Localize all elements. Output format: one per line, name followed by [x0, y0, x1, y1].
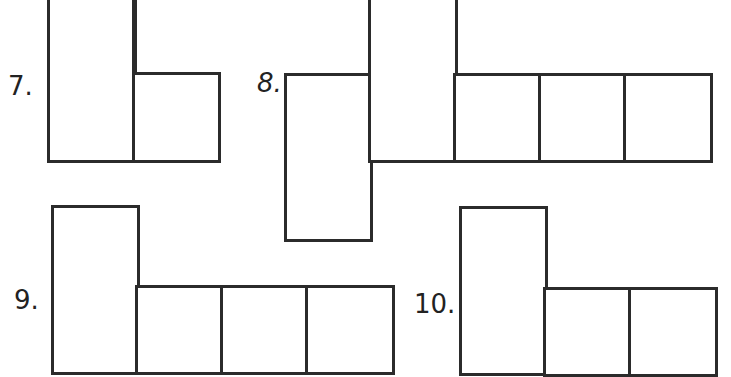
- grid-cell: [135, 285, 225, 375]
- problem-number: 8.: [257, 70, 282, 96]
- grid-cell: [628, 287, 718, 377]
- grid-cell: [284, 73, 373, 242]
- grid-cell: [543, 287, 633, 377]
- problem-number: 10.: [414, 291, 455, 317]
- problem-number: 7.: [8, 73, 33, 99]
- grid-cell: [47, 0, 137, 163]
- problem-number: 9.: [14, 287, 39, 313]
- grid-cell: [220, 285, 310, 375]
- grid-cell: [132, 72, 221, 163]
- grid-cell: [305, 285, 395, 375]
- grid-cell: [538, 73, 628, 163]
- grid-cell: [132, 0, 137, 78]
- grid-cell: [459, 206, 548, 376]
- grid-cell: [453, 73, 542, 163]
- grid-cell: [51, 205, 140, 375]
- grid-cell: [623, 73, 713, 163]
- grid-cell: [368, 0, 458, 163]
